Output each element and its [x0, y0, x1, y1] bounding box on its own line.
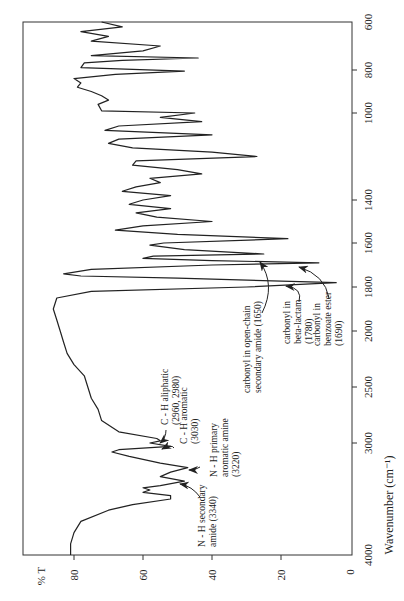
wn-tick-3000: 3000 — [362, 432, 374, 455]
pct-tick-40: 40 — [206, 569, 218, 581]
wn-axis-title: Wavenumber (cm⁻¹) — [382, 456, 396, 555]
wn-tick-600: 600 — [362, 13, 374, 30]
wn-tick-1000: 1000 — [362, 102, 374, 125]
arrow-ch-aliphatic — [160, 430, 166, 443]
pct-tick-60: 60 — [137, 569, 149, 581]
label-ch-aliphatic: C - H aliphatic (2960, 2980) — [160, 366, 182, 425]
wn-tick-1400: 1400 — [362, 189, 374, 212]
pct-axis-title: % T — [35, 567, 47, 586]
pct-tick-0: 0 — [344, 569, 356, 575]
wn-axis-labels: 600 800 1000 1400 1600 1800 2000 2500 30… — [362, 13, 396, 566]
label-nh-secondary: N - H secondary amide (3340) — [197, 482, 219, 547]
wn-axis-ticks — [352, 70, 357, 443]
pct-axis-labels: 80 60 40 20 0 % T — [35, 567, 356, 586]
wn-tick-4000: 4000 — [362, 544, 374, 567]
arrow-nh-primary — [189, 467, 200, 470]
label-ch-aromatic: C - H aromatic (3030) — [179, 385, 201, 444]
pct-tick-20: 20 — [275, 569, 287, 581]
label-co-ester: carbonyl in benzoate ester (1690) — [312, 290, 345, 346]
wn-tick-1800: 1800 — [362, 276, 374, 299]
pct-tick-80: 80 — [68, 569, 80, 581]
label-co-amide: carbonyl in open-chain secondary amide (… — [242, 301, 264, 393]
wn-tick-2500: 2500 — [362, 376, 374, 399]
wn-tick-1600: 1600 — [362, 232, 374, 255]
wn-tick-2000: 2000 — [362, 320, 374, 343]
ir-spectrum-chart: 80 60 40 20 0 % T 600 800 1000 1400 1600… — [0, 0, 404, 601]
label-nh-primary: N - H primary aromatic amine (3220) — [209, 416, 242, 477]
wn-tick-800: 800 — [362, 61, 374, 78]
pct-axis-ticks — [74, 555, 281, 560]
annotation-labels: N - H secondary amide (3340) N - H prima… — [160, 290, 345, 547]
label-co-lactam: carbonyl in beta-lactam (1780) — [282, 297, 315, 344]
